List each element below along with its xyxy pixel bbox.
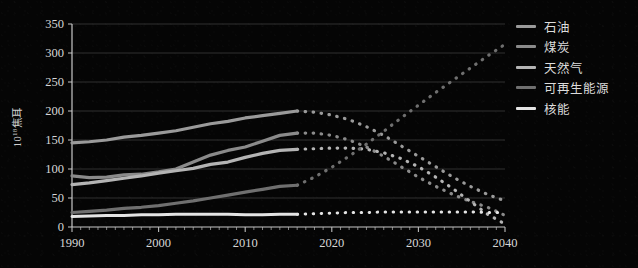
svg-text:50: 50 (52, 191, 65, 205)
svg-text:150: 150 (45, 133, 64, 147)
y-axis-label: 1018焦耳 (8, 72, 26, 182)
series-projection-5 (297, 212, 505, 214)
y-axis-label-unit: 焦耳 (13, 107, 24, 128)
legend-swatch-icon (516, 86, 536, 89)
svg-text:2030: 2030 (406, 236, 431, 250)
x-tick-labels: 199020002010202020302040 (60, 236, 518, 250)
svg-text:2020: 2020 (319, 236, 344, 250)
svg-text:250: 250 (45, 75, 64, 89)
legend-item-4[interactable]: 可再生能源 (516, 78, 634, 99)
svg-text:2000: 2000 (146, 236, 171, 250)
legend-item-label: 核能 (544, 99, 570, 118)
svg-text:300: 300 (45, 46, 64, 60)
svg-text:2010: 2010 (233, 236, 258, 250)
legend-item-label: 可再生能源 (544, 78, 609, 97)
legend-item-label: 石油 (544, 17, 570, 36)
legend-item-5[interactable]: 核能 (516, 98, 634, 119)
legend-item-label: 天然气 (544, 58, 583, 77)
y-tick-labels: 050100150200250300350 (45, 17, 64, 234)
axes (68, 24, 505, 227)
series-projection-1 (297, 111, 505, 201)
legend-swatch-icon (516, 66, 536, 69)
svg-text:200: 200 (45, 104, 64, 118)
svg-text:1990: 1990 (60, 236, 85, 250)
legend-item-1[interactable]: 石油 (516, 16, 634, 37)
series-history-1 (72, 111, 297, 143)
y-axis-label-prefix: 10 (13, 136, 24, 147)
series-lines (72, 44, 505, 224)
legend-item-2[interactable]: 煤炭 (516, 37, 634, 58)
legend-swatch-icon (516, 45, 536, 48)
svg-text:0: 0 (58, 220, 64, 234)
legend-item-label: 煤炭 (544, 37, 570, 56)
chart-legend: 石油煤炭天然气可再生能源核能 (516, 16, 634, 119)
series-history-4 (72, 185, 297, 212)
svg-text:350: 350 (45, 17, 64, 31)
svg-text:100: 100 (45, 162, 64, 176)
energy-outlook-chart: 050100150200250300350 199020002010202020… (0, 0, 638, 268)
legend-item-3[interactable]: 天然气 (516, 57, 634, 78)
x-tick-marks (72, 227, 505, 232)
legend-swatch-icon (516, 107, 536, 110)
y-axis-label-exponent: 18 (11, 128, 19, 136)
series-history-5 (72, 214, 297, 216)
legend-swatch-icon (516, 25, 536, 28)
svg-text:2040: 2040 (493, 236, 518, 250)
